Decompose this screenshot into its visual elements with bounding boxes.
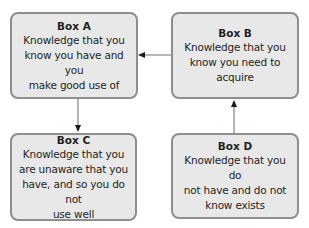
box-a-title: Box A [57, 19, 91, 33]
box-c-line-1: Knowledge that you [23, 147, 124, 162]
box-b: Box B Knowledge that you know you need t… [171, 12, 299, 99]
box-d-title: Box D [218, 139, 252, 153]
box-d-line-1: Knowledge that you do [177, 153, 293, 183]
box-b-line-3: acquire [216, 70, 254, 85]
box-b-title: Box B [218, 26, 252, 40]
box-c-line-2: are unaware that you [19, 162, 128, 177]
box-c: Box C Knowledge that you are unaware tha… [10, 133, 137, 221]
box-d-line-2: not have and do not [184, 183, 287, 198]
box-b-line-2: know you need to [190, 55, 281, 70]
box-c-title: Box C [57, 133, 90, 147]
box-a: Box A Knowledge that you know you have a… [10, 12, 138, 99]
box-c-line-4: use well [53, 207, 94, 222]
arrowhead-left-icon [138, 52, 145, 58]
box-a-line-3: make good use of [29, 78, 120, 93]
box-a-line-1: Knowledge that you [23, 33, 124, 48]
arrowhead-down-icon [75, 125, 81, 132]
box-d: Box D Knowledge that you do not have and… [171, 133, 299, 219]
arrowhead-up-icon [231, 100, 237, 107]
box-a-line-2: know you have and you [16, 48, 132, 78]
box-b-line-1: Knowledge that you [184, 40, 285, 55]
box-c-line-3: have, and so you do not [16, 177, 131, 207]
box-d-line-3: know exists [205, 198, 264, 213]
